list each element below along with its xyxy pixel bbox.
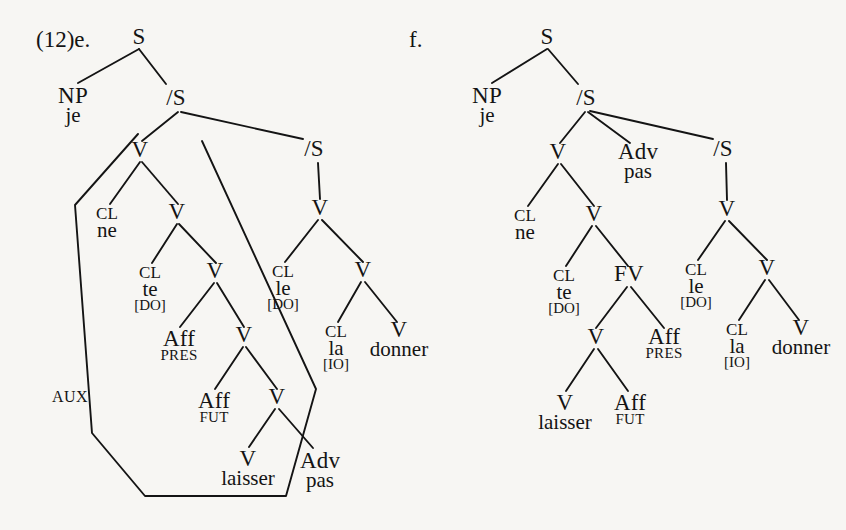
- label-feature: [DO]: [134, 298, 166, 313]
- label-word: pas: [300, 470, 340, 491]
- node-f-aff-pres: Aff PRES: [645, 325, 682, 362]
- label-category: V: [355, 257, 372, 282]
- node-e-cl-ne: CL ne: [96, 205, 118, 242]
- edge-v4-v5: [246, 347, 277, 389]
- node-e-sbar1: /S: [166, 86, 186, 109]
- label-category: /S: [576, 85, 596, 110]
- node-f-s-root: S: [541, 25, 554, 48]
- node-e-v3: V: [207, 259, 224, 282]
- label-category: /S: [304, 136, 324, 161]
- label-feature: [IO]: [323, 357, 349, 372]
- edge-f-v1-v2: [561, 164, 594, 206]
- node-f-v4: V: [719, 197, 736, 220]
- edge-v4-afffut: [215, 347, 243, 389]
- label-word: je: [472, 105, 502, 126]
- node-f-cl-la: CL la [IO]: [724, 321, 750, 370]
- node-f-v3: V: [588, 325, 605, 348]
- edge-v6-v7: [322, 220, 363, 262]
- edge-v3-affpres: [180, 283, 214, 327]
- label-category: V: [719, 196, 736, 221]
- edge-s-np: [78, 49, 139, 83]
- edge-f-v5-vdonner: [769, 280, 799, 320]
- edge-s-sbar1: [139, 49, 166, 84]
- label-word: donner: [772, 337, 830, 358]
- edge-v1-clne: [110, 162, 140, 204]
- edge-v5-vlaisser: [249, 409, 275, 447]
- node-e-v4: V: [236, 323, 253, 346]
- label-tense: PRES: [160, 348, 197, 363]
- label-category: V: [169, 199, 186, 224]
- node-e-cl-te: CL te [DO]: [134, 264, 166, 313]
- tree-edges-canvas: [0, 0, 846, 530]
- edge-f-sbar2-v4: [726, 163, 727, 200]
- label-category: V: [759, 255, 776, 280]
- label-word: donner: [370, 339, 428, 360]
- example-number-label: (12)e.: [36, 27, 90, 53]
- label-feature: [DO]: [548, 301, 580, 316]
- node-f-v2: V: [586, 202, 603, 225]
- label-tense: FUT: [614, 412, 646, 427]
- node-f-adv: Adv pas: [618, 140, 658, 183]
- edge-f-v3-afffut: [598, 349, 628, 391]
- node-e-aff-pres: Aff PRES: [160, 327, 197, 364]
- syntax-tree-figure: (12)e. f. S NP je /S V CL ne V CL te [DO…: [0, 0, 846, 530]
- label-category: V: [550, 139, 567, 164]
- node-e-v7: V: [355, 258, 372, 281]
- node-f-v5: V: [759, 256, 776, 279]
- edge-v7-vdonner: [365, 282, 397, 322]
- node-e-cl-le: CL le [DO]: [267, 263, 299, 312]
- node-e-adv: Adv pas: [300, 449, 340, 492]
- node-e-v5: V: [269, 385, 286, 408]
- aux-constituent-outline: [75, 134, 316, 496]
- node-f-np: NP je: [472, 84, 502, 127]
- node-f-cl-te: CL te [DO]: [548, 267, 580, 316]
- node-f-v-laisser: V laisser: [538, 391, 592, 434]
- node-e-aff-fut: Aff FUT: [198, 389, 230, 426]
- node-f-aff-fut: Aff FUT: [614, 391, 646, 428]
- node-f-sbar1: /S: [576, 86, 596, 109]
- label-word: laisser: [221, 468, 275, 489]
- node-f-cl-ne: CL ne: [514, 207, 536, 244]
- label-category: V: [207, 258, 224, 283]
- label-tense: PRES: [645, 346, 682, 361]
- label-word: je: [58, 105, 88, 126]
- example-number: (12): [36, 27, 74, 52]
- node-e-v-donner: V donner: [370, 318, 428, 361]
- label-word: ne: [96, 220, 118, 241]
- edge-f-v5-clla: [739, 280, 765, 320]
- label-category: V: [236, 322, 253, 347]
- label-word: pas: [618, 161, 658, 182]
- edge-v2-clte: [152, 224, 177, 263]
- edge-f-v4-clle: [698, 221, 725, 260]
- edge-f-v3-vlaisser: [566, 349, 594, 391]
- edge-sbar2-v6: [318, 163, 320, 199]
- aux-label: AUX: [52, 388, 88, 406]
- label-category: V: [269, 384, 286, 409]
- label-feature: [IO]: [724, 355, 750, 370]
- label-category: /S: [713, 136, 733, 161]
- label-category: S: [541, 24, 554, 49]
- label-category: V: [132, 137, 149, 162]
- label-category: V: [588, 324, 605, 349]
- edge-f-fv-v3: [596, 287, 627, 328]
- edge-v7-clla: [338, 282, 361, 322]
- label-category: V: [586, 201, 603, 226]
- node-f-sbar2: /S: [713, 137, 733, 160]
- label-tense: FUT: [198, 410, 230, 425]
- label-feature: [DO]: [267, 297, 299, 312]
- node-e-v1: V: [132, 138, 149, 161]
- label-word: laisser: [538, 412, 592, 433]
- edge-v6-clle: [285, 220, 318, 262]
- label-category: V: [312, 195, 329, 220]
- label-feature: [DO]: [680, 295, 712, 310]
- edge-f-v1-clne: [528, 164, 558, 206]
- edge-sbar1-sbar2: [181, 112, 303, 139]
- panel-e-letter: e.: [74, 27, 90, 52]
- edge-f-s-np: [492, 49, 547, 83]
- node-e-np: NP je: [58, 84, 88, 127]
- edge-f-sbar1-sbar2: [590, 111, 713, 139]
- edge-f-fv-affpres: [631, 287, 664, 328]
- label-category: /S: [166, 85, 186, 110]
- edge-v3-v4: [217, 283, 244, 327]
- panel-f-label: f.: [409, 27, 422, 53]
